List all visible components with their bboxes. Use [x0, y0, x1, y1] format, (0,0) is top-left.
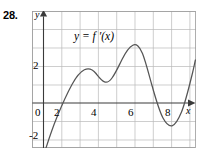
grid-lines: [32, 11, 196, 148]
graph-svg: [32, 11, 196, 148]
x-tick-label-4: 4: [91, 106, 97, 118]
x-tick-label-8: 8: [165, 106, 171, 118]
y-axis-name: y: [35, 9, 39, 20]
plot-area: 0 2 4 6 8 2 -2 y x: [32, 11, 196, 148]
y-tick-label-2: 2: [33, 59, 39, 71]
y-tick-label-minus-2: -2: [29, 129, 38, 141]
x-tick-label-0: 0: [35, 106, 41, 118]
curve-f-prime: [45, 45, 195, 148]
x-tick-label-2: 2: [54, 106, 60, 118]
x-axis-name: x: [186, 105, 190, 116]
y-axis: [40, 11, 47, 148]
y-axis-arrow-icon: [40, 11, 47, 17]
x-tick-label-6: 6: [128, 106, 134, 118]
curve-equation-label: y = f ′(x): [74, 30, 114, 42]
problem-number: 28.: [3, 9, 18, 21]
figure-container: 28.: [0, 0, 209, 156]
